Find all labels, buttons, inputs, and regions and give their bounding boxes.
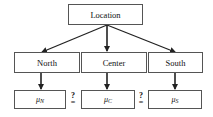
hypothesis-diagram: Location North Center South μN μC μS ?= … bbox=[0, 0, 213, 117]
mu-south: μS bbox=[171, 95, 178, 104]
center-label: Center bbox=[103, 58, 126, 68]
south-box: South bbox=[148, 52, 203, 73]
north-box: North bbox=[14, 52, 80, 73]
mu-center-box: μC bbox=[81, 90, 135, 109]
comparison-c-s: ?= bbox=[137, 92, 145, 106]
location-box: Location bbox=[68, 4, 143, 25]
comparison-n-c: ?= bbox=[69, 92, 77, 106]
location-label: Location bbox=[90, 10, 120, 20]
mu-north-box: μN bbox=[14, 90, 66, 109]
mu-center: μC bbox=[104, 95, 112, 104]
mu-north: μN bbox=[36, 95, 44, 104]
center-box: Center bbox=[81, 52, 147, 73]
south-label: South bbox=[166, 58, 186, 68]
north-label: North bbox=[37, 58, 57, 68]
mu-south-box: μS bbox=[148, 90, 202, 109]
